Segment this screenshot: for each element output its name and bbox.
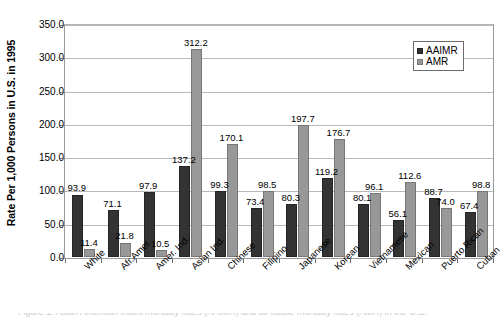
y-tick-label: 200.0 bbox=[22, 120, 64, 130]
y-tick-label: 150.0 bbox=[22, 153, 64, 163]
bar-chart: Rate Per 1,000 Persons in U.S. in 1995 0… bbox=[0, 0, 504, 323]
bar-value-label: 93.9 bbox=[60, 183, 94, 193]
legend-swatch-icon-aaimr bbox=[417, 48, 423, 54]
legend-label-amr: AMR bbox=[426, 57, 448, 67]
bar-value-label: 98.8 bbox=[464, 180, 498, 190]
figure-caption-text: Figure 1. Asian American infant mortalit… bbox=[18, 313, 427, 318]
bar bbox=[441, 208, 452, 257]
bar-value-label: 96.1 bbox=[357, 182, 391, 192]
bar bbox=[334, 139, 345, 257]
bar-value-label: 119.2 bbox=[310, 167, 344, 177]
figure-caption-sliver: Figure 1. Asian American infant mortalit… bbox=[0, 313, 504, 323]
bar-value-label: 80.3 bbox=[274, 193, 308, 203]
bar-value-label: 170.1 bbox=[215, 133, 249, 143]
legend-label-aaimr: AAIMR bbox=[426, 46, 458, 56]
bar-value-label: 137.2 bbox=[167, 155, 201, 165]
y-tick-label: 0.0 bbox=[22, 253, 64, 263]
bar-value-label: 21.8 bbox=[108, 231, 142, 241]
bar-value-label: 99.3 bbox=[203, 180, 237, 190]
chart-legend[interactable]: AAIMR AMR bbox=[413, 41, 464, 71]
bar bbox=[405, 182, 416, 257]
bar-value-label: 312.2 bbox=[179, 38, 213, 48]
y-axis-ticks: 0.050.0100.0150.0200.0250.0300.0350.0 bbox=[14, 0, 64, 283]
bar-value-label: 80.1 bbox=[345, 193, 379, 203]
bar-value-label: 97.9 bbox=[131, 181, 165, 191]
bar-value-label: 10.5 bbox=[143, 239, 177, 249]
bar-value-label: 67.4 bbox=[452, 201, 486, 211]
legend-swatch-icon-amr bbox=[417, 59, 423, 65]
y-tick-label: 50.0 bbox=[22, 220, 64, 230]
bar-value-label: 197.7 bbox=[286, 114, 320, 124]
y-tick-label: 100.0 bbox=[22, 186, 64, 196]
bar-value-label: 176.7 bbox=[322, 128, 356, 138]
legend-item-aaimr[interactable]: AAIMR bbox=[417, 45, 458, 56]
y-tick-label: 250.0 bbox=[22, 87, 64, 97]
bar-value-label: 56.1 bbox=[381, 209, 415, 219]
y-tick-label: 300.0 bbox=[22, 53, 64, 63]
x-tick-mark bbox=[65, 259, 66, 263]
y-tick-label: 350.0 bbox=[22, 20, 64, 30]
bar-value-label: 112.6 bbox=[393, 171, 427, 181]
bar bbox=[227, 144, 238, 257]
bar-value-label: 73.4 bbox=[238, 197, 272, 207]
bar-value-label: 11.4 bbox=[72, 238, 106, 248]
bar-value-label: 98.5 bbox=[250, 180, 284, 190]
bar-value-label: 71.1 bbox=[96, 199, 130, 209]
legend-item-amr[interactable]: AMR bbox=[417, 56, 458, 67]
